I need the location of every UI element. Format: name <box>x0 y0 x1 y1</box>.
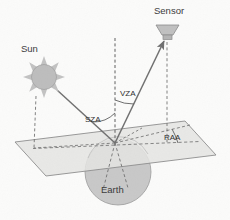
raa-label: RAA <box>164 133 181 142</box>
sensor-icon <box>156 25 179 40</box>
vza-label: VZA <box>120 89 136 98</box>
sensor-body <box>156 25 179 35</box>
earth-label: Earth <box>101 184 124 195</box>
diagram-canvas: Sun Sensor Earth SZA VZA RAA <box>0 0 230 220</box>
sun-label: Sun <box>21 43 38 54</box>
sun-disc <box>32 65 57 90</box>
geometry-diagram: Sun Sensor Earth SZA VZA RAA <box>0 0 230 220</box>
ground-plane-parallelogram <box>15 121 216 176</box>
view-zenith-angle-arc <box>115 100 134 104</box>
sensor-label: Sensor <box>154 5 184 16</box>
plane-surface <box>15 121 216 176</box>
sun-icon <box>23 56 65 98</box>
sensor-aperture <box>163 35 172 40</box>
sza-label: SZA <box>85 115 101 124</box>
